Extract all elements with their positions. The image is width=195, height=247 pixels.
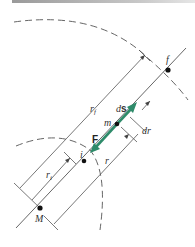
radial-line [16,48,186,228]
point-m [115,122,120,127]
inner-dashed-arc [16,138,102,230]
label-ri: ri [46,169,52,182]
rf-tick-start [14,183,42,210]
label-F: F [92,134,98,145]
label-dr: dr [142,125,151,136]
label-M: M [34,213,44,224]
point-f [165,67,170,72]
label-ds: ds [116,103,127,114]
gravity-work-diagram: M i m f rf ri r ds dr F [0,0,195,247]
r-arrowhead [124,134,129,139]
label-i: i [80,149,83,160]
label-rf: rf [90,103,97,116]
label-m: m [104,117,111,128]
rf-dimension-line [20,55,145,188]
label-f: f [166,54,170,65]
label-r: r [105,155,109,166]
point-M [37,205,42,210]
r-tick-start [44,216,58,230]
dr-tick-a [121,127,137,142]
outer-dashed-arc [14,20,188,100]
